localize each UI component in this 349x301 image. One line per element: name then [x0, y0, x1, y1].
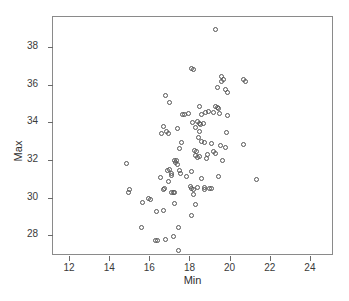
data-point — [213, 151, 218, 156]
y-axis-tick — [48, 160, 53, 161]
data-point — [197, 154, 202, 159]
data-point — [177, 146, 182, 151]
data-point — [161, 124, 166, 129]
data-point — [217, 111, 222, 116]
data-point — [172, 190, 177, 195]
data-point — [215, 85, 220, 90]
data-point — [155, 238, 160, 243]
data-point — [177, 168, 182, 173]
data-point — [124, 161, 129, 166]
data-point — [201, 121, 206, 126]
data-point — [225, 113, 230, 118]
data-point — [161, 208, 166, 213]
data-points-layer — [53, 17, 334, 256]
data-point — [223, 145, 228, 150]
data-point — [140, 200, 145, 205]
data-point — [211, 110, 216, 115]
data-point — [213, 27, 218, 32]
data-point — [193, 202, 198, 207]
data-point — [162, 186, 167, 191]
data-point — [163, 93, 168, 98]
data-point — [158, 175, 163, 180]
x-axis-tick-label: 20 — [224, 262, 235, 273]
x-axis-tick-label: 24 — [304, 262, 315, 273]
x-axis-tick — [149, 256, 150, 261]
data-point — [199, 176, 204, 181]
data-point — [219, 79, 224, 84]
y-axis-tick — [48, 235, 53, 236]
y-axis-tick-label: 32 — [27, 153, 38, 164]
x-axis-tick-label: 14 — [104, 262, 115, 273]
x-axis-tick — [109, 256, 110, 261]
y-axis-tick-label: 34 — [27, 115, 38, 126]
data-point — [184, 174, 189, 179]
data-point — [176, 225, 181, 230]
data-point — [172, 201, 177, 206]
data-point — [197, 104, 202, 109]
data-point — [186, 111, 191, 116]
y-axis-title: Max — [12, 140, 24, 161]
data-point — [199, 112, 204, 117]
data-point — [148, 197, 153, 202]
x-axis-tick — [230, 256, 231, 261]
data-point — [220, 158, 225, 163]
data-point — [188, 184, 193, 189]
x-axis-tick-label: 18 — [184, 262, 195, 273]
x-axis-tick — [69, 256, 70, 261]
data-point — [171, 234, 176, 239]
data-point — [189, 169, 194, 174]
y-axis-tick-label: 36 — [27, 78, 38, 89]
data-point — [167, 167, 172, 172]
data-point — [154, 209, 159, 214]
data-point — [163, 237, 168, 242]
y-axis-tick-label: 30 — [27, 191, 38, 202]
data-point — [191, 192, 196, 197]
data-point — [202, 187, 207, 192]
data-point — [216, 106, 221, 111]
data-point — [195, 185, 200, 190]
data-point — [167, 100, 172, 105]
data-point — [175, 126, 180, 131]
data-point — [216, 174, 221, 179]
data-point — [166, 131, 171, 136]
data-point — [159, 131, 164, 136]
data-point — [189, 213, 194, 218]
data-point — [225, 90, 230, 95]
data-point — [243, 79, 248, 84]
data-point — [197, 129, 202, 134]
data-point — [126, 190, 131, 195]
x-axis-tick-label: 22 — [264, 262, 275, 273]
data-point — [224, 130, 229, 135]
data-point — [190, 120, 195, 125]
data-point — [254, 177, 259, 182]
data-point — [139, 225, 144, 230]
x-axis-tick-label: 16 — [144, 262, 155, 273]
scatter-plot-figure: Max Min 12141618202224283032343638 — [0, 0, 349, 301]
x-axis-tick — [270, 256, 271, 261]
data-point — [209, 141, 214, 146]
y-axis-tick — [48, 198, 53, 199]
data-point — [169, 173, 174, 178]
plot-area: 12141618202224283032343638 — [52, 16, 333, 255]
x-axis-tick — [189, 256, 190, 261]
data-point — [166, 179, 171, 184]
data-point — [179, 140, 184, 145]
y-axis-tick — [48, 122, 53, 123]
data-point — [175, 162, 180, 167]
x-axis-tick — [310, 256, 311, 261]
data-point — [209, 186, 214, 191]
x-axis-tick-label: 12 — [63, 262, 74, 273]
y-axis-tick-label: 38 — [27, 40, 38, 51]
y-axis-tick — [48, 47, 53, 48]
x-axis-title: Min — [52, 274, 333, 286]
data-point — [199, 139, 204, 144]
data-point — [204, 156, 209, 161]
data-point — [191, 67, 196, 72]
data-point — [241, 142, 246, 147]
data-point — [176, 248, 181, 253]
y-axis-tick-label: 28 — [27, 228, 38, 239]
y-axis-tick — [48, 85, 53, 86]
